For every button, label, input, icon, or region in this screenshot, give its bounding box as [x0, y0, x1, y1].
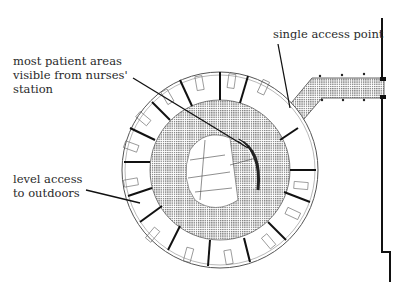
existing-building-wall [380, 18, 390, 282]
label-level-access-outdoors: level access to outdoors [13, 172, 82, 200]
label-patient-visibility: most patient areas visible from nurses' … [13, 54, 128, 96]
floor-plan-drawing [0, 0, 400, 283]
label-single-access-point: single access point [273, 27, 383, 41]
